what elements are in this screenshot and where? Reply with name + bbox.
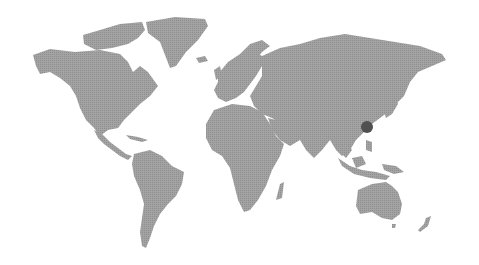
philippines <box>366 140 372 152</box>
madagascar <box>276 182 284 200</box>
tasmania <box>392 224 396 228</box>
central-america <box>94 130 132 160</box>
north-america <box>33 49 158 136</box>
world-map <box>0 0 479 265</box>
australia <box>356 182 402 220</box>
new-guinea <box>382 164 404 174</box>
world-map-svg <box>0 0 479 265</box>
arctic-islands <box>83 22 145 50</box>
south-america <box>132 150 184 248</box>
continents <box>33 17 446 248</box>
iceland <box>196 56 208 63</box>
new-zealand <box>418 216 431 232</box>
location-marker[interactable] <box>361 121 373 133</box>
caribbean <box>126 135 148 142</box>
borneo <box>352 156 366 168</box>
india <box>304 128 326 156</box>
